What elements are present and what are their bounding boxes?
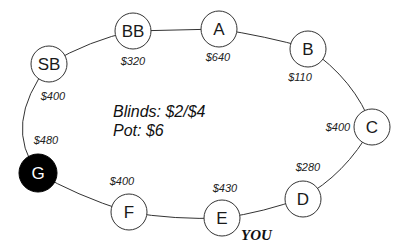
seat-label: B xyxy=(302,40,313,59)
seat-stack: $400 xyxy=(109,175,135,187)
seat-d: D $280 xyxy=(285,161,321,217)
seat-label: G xyxy=(31,164,44,183)
seat-stack: $400 xyxy=(40,90,66,102)
seat-label: E xyxy=(216,209,227,228)
seat-c: C $400 xyxy=(325,109,390,145)
poker-table-diagram: Blinds: $2/$4 Pot: $6 SB $400 BB $320 A … xyxy=(0,0,394,242)
seat-stack: $110 xyxy=(287,71,313,83)
you-label: YOU xyxy=(241,227,273,242)
seat-g: G $480 xyxy=(19,134,59,192)
seat-stack: $640 xyxy=(205,51,231,63)
seat-label: A xyxy=(213,20,225,39)
seat-stack: $480 xyxy=(33,134,59,146)
seat-sb: SB $400 xyxy=(31,46,67,102)
seat-e: E $430 YOU xyxy=(204,182,273,242)
pot-text: Pot: $6 xyxy=(113,122,164,139)
seat-label: D xyxy=(297,190,309,209)
seat-label: F xyxy=(124,203,134,222)
seat-a: A $640 xyxy=(201,11,237,63)
seat-stack: $400 xyxy=(325,121,351,133)
seat-stack: $320 xyxy=(120,55,146,67)
seat-f: F $400 xyxy=(109,175,147,230)
blinds-text: Blinds: $2/$4 xyxy=(113,103,206,120)
seat-stack: $430 xyxy=(212,182,238,194)
seat-b: B $110 xyxy=(287,31,326,83)
seat-label: BB xyxy=(122,22,145,41)
seat-label: SB xyxy=(38,55,61,74)
seat-stack: $280 xyxy=(295,161,321,173)
seat-bb: BB $320 xyxy=(115,13,151,67)
seat-label: C xyxy=(366,118,378,137)
